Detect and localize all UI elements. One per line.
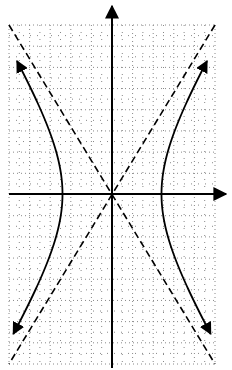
hyperbola-graph	[0, 0, 232, 370]
axes	[9, 6, 226, 368]
